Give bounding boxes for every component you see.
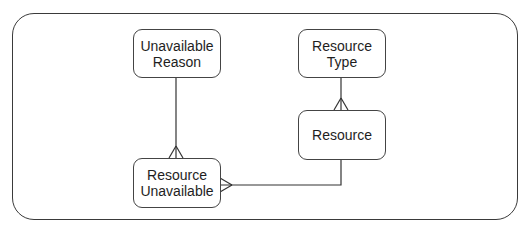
relationship-reason-to-unavailable	[169, 78, 183, 158]
entity-label: Unavailable Reason	[140, 38, 213, 70]
relationship-lines	[0, 0, 531, 233]
relationship-type-to-resource	[334, 78, 348, 110]
relationship-resource-to-unavailable	[220, 160, 341, 192]
entity-label: Resource Unavailable	[140, 167, 213, 199]
entity-label: Resource Type	[312, 38, 372, 70]
entity-resource-type[interactable]: Resource Type	[298, 29, 386, 78]
entity-label: Resource	[312, 127, 372, 143]
entity-unavailable-reason[interactable]: Unavailable Reason	[133, 29, 221, 78]
entity-resource-unavailable[interactable]: Resource Unavailable	[133, 158, 221, 208]
entity-resource[interactable]: Resource	[298, 110, 386, 160]
